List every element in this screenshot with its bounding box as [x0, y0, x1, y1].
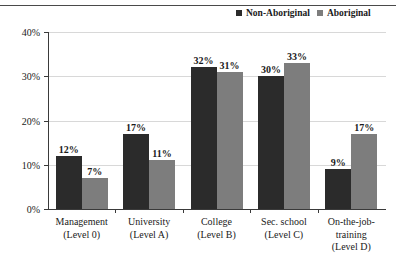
- x-axis-category-line: On-the-job-: [308, 216, 394, 229]
- bar: [56, 156, 82, 209]
- y-axis-tick: [44, 121, 48, 122]
- bar: [123, 134, 149, 209]
- y-axis-tick: [44, 209, 48, 210]
- x-axis-category-line: training: [308, 229, 394, 242]
- bar-value-label: 33%: [280, 51, 314, 62]
- y-axis-tick: [44, 76, 48, 77]
- legend-swatch-non-aboriginal: [236, 10, 242, 16]
- x-axis-tick: [318, 209, 319, 213]
- bar-group: 17%11%: [123, 32, 175, 209]
- bar-value-label: 11%: [145, 148, 179, 159]
- bar: [82, 178, 108, 209]
- legend-label-non-aboriginal: Non-Aboriginal: [246, 8, 310, 18]
- bar: [284, 63, 310, 209]
- bar-group: 9%17%: [325, 32, 377, 209]
- bar-value-label: 17%: [119, 122, 153, 133]
- bar-value-label: 12%: [52, 144, 86, 155]
- legend-item-aboriginal: Aboriginal: [317, 8, 371, 18]
- x-axis-line: [48, 209, 386, 210]
- y-axis-tick-label: 30%: [4, 71, 40, 82]
- x-axis-tick: [115, 209, 116, 213]
- bar: [258, 76, 284, 209]
- y-axis-tick-label: 10%: [4, 159, 40, 170]
- legend-item-non-aboriginal: Non-Aboriginal: [236, 8, 310, 18]
- bar-value-label: 9%: [321, 157, 355, 168]
- x-axis-category-line: (Level D): [308, 241, 394, 254]
- legend-label-aboriginal: Aboriginal: [327, 8, 371, 18]
- bar: [325, 169, 351, 209]
- bar-value-label: 7%: [78, 166, 112, 177]
- bar: [217, 72, 243, 209]
- x-axis-tick: [183, 209, 184, 213]
- bar: [191, 67, 217, 209]
- legend-swatch-aboriginal: [317, 10, 323, 16]
- bar-value-label: 17%: [347, 122, 381, 133]
- bar: [149, 160, 175, 209]
- y-axis-tick-label: 40%: [4, 27, 40, 38]
- bar-value-label: 30%: [254, 64, 288, 75]
- y-axis-tick: [44, 32, 48, 33]
- bar-group: 32%31%: [191, 32, 243, 209]
- chart-legend: Non-Aboriginal Aboriginal: [236, 8, 371, 18]
- bar: [351, 134, 377, 209]
- x-axis-tick: [250, 209, 251, 213]
- y-axis-tick: [44, 165, 48, 166]
- top-divider: [0, 5, 396, 6]
- y-axis-tick-label: 20%: [4, 115, 40, 126]
- bar-value-label: 31%: [213, 60, 247, 71]
- y-axis-tick-label: 0%: [4, 204, 40, 215]
- bar-group: 12%7%: [56, 32, 108, 209]
- bar-group: 30%33%: [258, 32, 310, 209]
- x-axis-category-label: On-the-job-training(Level D): [308, 216, 394, 254]
